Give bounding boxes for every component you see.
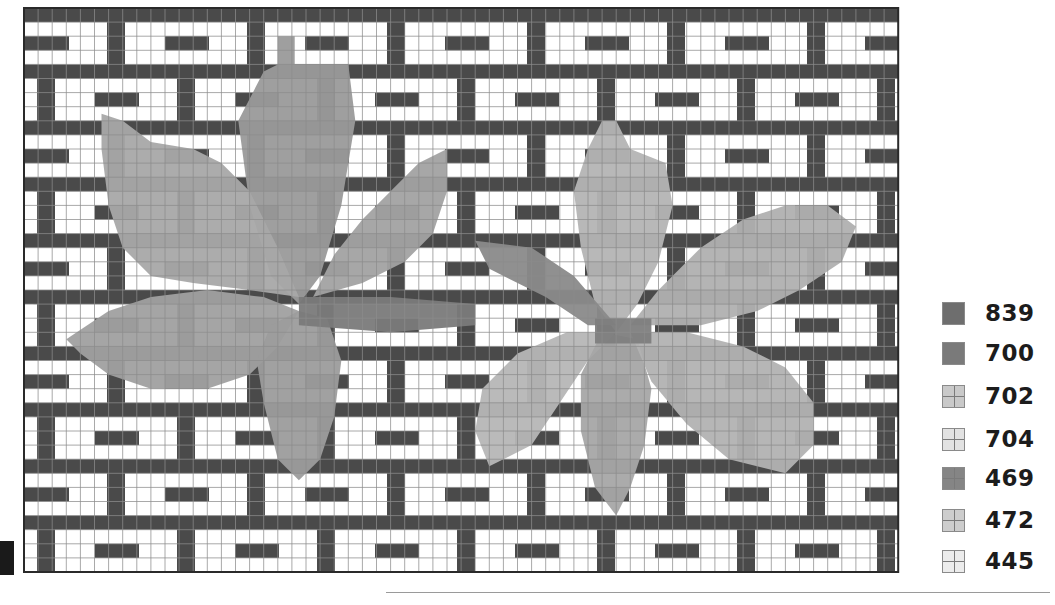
brick-bar bbox=[305, 36, 349, 50]
brick-edge bbox=[25, 417, 33, 459]
brick-bar bbox=[795, 318, 839, 332]
brick-bar bbox=[725, 36, 769, 50]
horizontal-rule bbox=[386, 592, 1050, 593]
brick-bar bbox=[725, 487, 769, 501]
brick-bar bbox=[655, 431, 699, 445]
stitch-chart-grid bbox=[22, 7, 900, 575]
legend-swatch-icon bbox=[942, 385, 965, 408]
brick-bar bbox=[95, 544, 139, 558]
brick-bar bbox=[445, 149, 489, 163]
brick-bar bbox=[655, 93, 699, 107]
legend-code: 445 bbox=[985, 548, 1035, 574]
brick-bar bbox=[305, 487, 349, 501]
brick-bar bbox=[445, 36, 489, 50]
brick-edge bbox=[25, 191, 33, 233]
legend-code: 472 bbox=[985, 507, 1035, 533]
grid-lines bbox=[24, 8, 898, 572]
brick-bar bbox=[445, 487, 489, 501]
brick-bar bbox=[95, 431, 139, 445]
leaf-left-stem bbox=[299, 297, 475, 332]
brick-bar bbox=[795, 93, 839, 107]
brick-bar bbox=[585, 36, 629, 50]
brick-bar bbox=[375, 431, 419, 445]
brick-edge bbox=[25, 79, 33, 121]
legend-item-5: 472 bbox=[942, 507, 1035, 533]
brick-bar bbox=[25, 487, 69, 501]
legend-swatch-icon bbox=[942, 467, 965, 490]
legend-item-2: 702 bbox=[942, 383, 1035, 409]
brick-bar bbox=[655, 544, 699, 558]
brick-bar bbox=[165, 487, 209, 501]
legend-code: 839 bbox=[985, 300, 1035, 326]
legend-code: 704 bbox=[985, 426, 1035, 452]
brick-edge bbox=[25, 530, 33, 572]
legend-swatch-icon bbox=[942, 509, 965, 532]
legend-swatch-icon bbox=[942, 342, 965, 365]
legend-item-1: 700 bbox=[942, 340, 1035, 366]
legend-code: 700 bbox=[985, 340, 1035, 366]
brick-bar bbox=[235, 544, 279, 558]
leaf-right-stem bbox=[595, 318, 651, 343]
brick-bar bbox=[445, 262, 489, 276]
brick-bar bbox=[725, 149, 769, 163]
legend-code: 469 bbox=[985, 465, 1035, 491]
brick-bar bbox=[515, 205, 559, 219]
brick-edge bbox=[25, 304, 33, 346]
brick-bar bbox=[515, 544, 559, 558]
legend-item-6: 445 bbox=[942, 548, 1035, 574]
brick-bar bbox=[25, 262, 69, 276]
brick-bar bbox=[375, 93, 419, 107]
stitch-chart bbox=[22, 7, 900, 575]
brick-bar bbox=[25, 375, 69, 389]
page-edge-tab bbox=[0, 541, 14, 575]
legend-swatch-icon bbox=[942, 550, 965, 573]
brick-bar bbox=[25, 36, 69, 50]
brick-bar bbox=[445, 375, 489, 389]
brick-bar bbox=[515, 318, 559, 332]
legend-item-4: 469 bbox=[942, 465, 1035, 491]
brick-bar bbox=[375, 544, 419, 558]
brick-bar bbox=[95, 93, 139, 107]
brick-bar bbox=[165, 36, 209, 50]
legend-code: 702 bbox=[985, 383, 1035, 409]
legend-swatch-icon bbox=[942, 428, 965, 451]
legend-item-3: 704 bbox=[942, 426, 1035, 452]
brick-bar bbox=[795, 544, 839, 558]
legend-item-0: 839 bbox=[942, 300, 1035, 326]
brick-bar bbox=[515, 93, 559, 107]
legend-swatch-icon bbox=[942, 302, 965, 325]
brick-bar bbox=[25, 149, 69, 163]
